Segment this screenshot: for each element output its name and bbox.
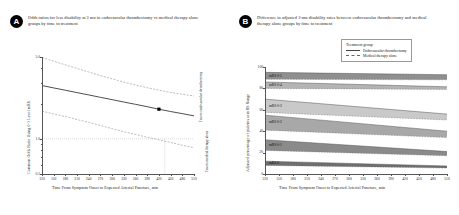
- panel-b-x-tick: [405, 174, 406, 176]
- panel-b-x-tick-label: 180: [288, 177, 298, 181]
- legend-label-medical: Medical therapy alone: [363, 54, 397, 58]
- panel-a-badge: A: [10, 15, 23, 28]
- panel-a-annotation-favors-evt: Favors endovascular thrombectomy: [199, 72, 203, 122]
- panel-a-x-tick: [124, 174, 125, 176]
- panel-b-x-tick-label: 210: [302, 177, 312, 181]
- panel-b-x-tick-label: 270: [330, 177, 340, 181]
- panel-a-svg: [42, 57, 194, 174]
- panel-b-y-tick: [263, 110, 265, 111]
- panel-a-x-axis-label: Time From Symptom Onset to Expected Arte…: [52, 185, 158, 190]
- panel-b-band-label: mRS 0-1: [269, 143, 282, 147]
- legend-title: Treatment group: [346, 42, 407, 47]
- figure-root: A Odds ratios for less disability at 3 m…: [0, 0, 459, 215]
- panel-b-x-tick-label: 300: [344, 177, 354, 181]
- panel-b-legend: Treatment group Endovascular thrombectom…: [341, 39, 412, 62]
- panel-b-plot: [265, 67, 447, 174]
- panel-b-x-tick: [335, 174, 336, 176]
- panel-a-y-tick-label: 5.0: [31, 55, 40, 59]
- panel-b-x-tick-label: 390: [386, 177, 396, 181]
- panel-a-y-tick-label: 1.0: [31, 137, 40, 141]
- panel-b-x-tick: [447, 174, 448, 176]
- panel-a-x-tick: [194, 174, 195, 176]
- panel-b-x-tick-label: 450: [414, 177, 424, 181]
- panel-b-x-tick: [363, 174, 364, 176]
- panel-a-x-tick: [136, 174, 137, 176]
- panel-b-x-tick: [377, 174, 378, 176]
- panel-b-y-tick-label: 20: [254, 150, 263, 154]
- panel-b-y-axis: [265, 67, 266, 174]
- panel-a-annotation-favors-medical: Favors medical therapy alone: [205, 131, 209, 172]
- panel-b-y-tick-label: 100: [254, 65, 263, 69]
- panel-a-x-tick: [147, 174, 148, 176]
- panel-b-y-tick: [263, 153, 265, 154]
- panel-b-y-tick: [263, 67, 265, 68]
- panel-b-y-tick: [263, 88, 265, 89]
- panel-b-band-label: mRS 0-3: [269, 104, 282, 108]
- panel-b-y-axis-label: Adjusted percentage of patients at mRS R…: [245, 172, 323, 177]
- panel-b-x-tick-label: 420: [400, 177, 410, 181]
- panel-b-x-tick-label: 240: [316, 177, 326, 181]
- panel-a-x-tick: [171, 174, 172, 176]
- panel-b-band-label: mRS 0-2: [269, 120, 282, 124]
- legend-label-thrombectomy: Endovascular thrombectomy: [363, 49, 407, 53]
- panel-a-x-tick: [112, 174, 113, 176]
- panel-b-y-tick-label: 80: [254, 86, 263, 90]
- panel-a-x-tick-label: 300: [107, 177, 117, 181]
- panel-b-x-tick-label: 330: [358, 177, 368, 181]
- panel-a-x-tick-label: 360: [131, 177, 141, 181]
- panel-a-y-axis: [42, 57, 43, 174]
- panel-a-header: A Odds ratios for less disability at 3 m…: [10, 15, 203, 28]
- panel-b-x-axis-label: Time From Symptom Onset to Expected Arte…: [279, 185, 385, 190]
- panel-a: A Odds ratios for less disability at 3 m…: [0, 0, 229, 215]
- panel-a-x-tick-label: 510: [189, 177, 199, 181]
- panel-a-y-axis-label: Common Odds Ratio Using 0-1 Level mRS: [26, 174, 99, 179]
- legend-key-dashed-icon: [346, 55, 360, 56]
- panel-b-y-tick: [263, 131, 265, 132]
- panel-b-x-tick: [391, 174, 392, 176]
- panel-b-x-tick-label: 360: [372, 177, 382, 181]
- panel-b-x-tick: [433, 174, 434, 176]
- panel-a-y-tick: [40, 139, 42, 140]
- panel-a-plot: [42, 57, 194, 174]
- legend-key-solid-icon: [346, 50, 360, 51]
- panel-b-y-tick-label: 60: [254, 108, 263, 112]
- panel-a-y-tick: [40, 57, 42, 58]
- panel-a-x-tick-label: 420: [154, 177, 164, 181]
- panel-b-header: B Difference in adjusted 3-mo disability…: [239, 15, 432, 28]
- panel-b-x-tick: [419, 174, 420, 176]
- panel-a-title: Odds ratios for less disability at 3 mo …: [28, 15, 203, 28]
- panel-a-x-tick-label: 450: [166, 177, 176, 181]
- panel-b-x-tick-label: 480: [428, 177, 438, 181]
- panel-a-x-tick: [100, 174, 101, 176]
- panel-a-x-tick-label: 390: [142, 177, 152, 181]
- legend-item-medical: Medical therapy alone: [346, 54, 407, 58]
- panel-b-x-tick-label: 120: [260, 177, 270, 181]
- panel-b-x-tick-label: 510: [442, 177, 452, 181]
- panel-b-band-label: mRS 0-5: [269, 74, 282, 78]
- panel-a-x-tick-label: 330: [119, 177, 129, 181]
- panel-b-y-tick-label: 40: [254, 129, 263, 133]
- panel-a-x-tick-label: 480: [177, 177, 187, 181]
- panel-b-x-tick: [349, 174, 350, 176]
- panel-b-badge: B: [239, 15, 252, 28]
- panel-a-x-tick: [159, 174, 160, 176]
- panel-a-x-tick: [182, 174, 183, 176]
- panel-b-band-label: mRS 0-4: [269, 83, 282, 87]
- panel-b-x-tick-label: 150: [274, 177, 284, 181]
- panel-b-svg: [265, 67, 447, 174]
- panel-b-band-label: mRS 0: [269, 161, 279, 165]
- panel-b: B Difference in adjusted 3-mo disability…: [229, 0, 459, 215]
- legend-item-thrombectomy: Endovascular thrombectomy: [346, 49, 407, 53]
- panel-b-title: Difference in adjusted 3-mo disability r…: [257, 15, 432, 28]
